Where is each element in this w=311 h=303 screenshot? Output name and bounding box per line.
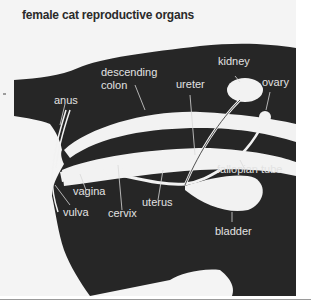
bottom-divider bbox=[0, 299, 311, 300]
label-descending: descending bbox=[101, 66, 157, 78]
label-fallopian-tube: fallopian tube bbox=[217, 163, 282, 175]
label-uterus: uterus bbox=[142, 196, 173, 208]
kidney-organ bbox=[227, 78, 263, 102]
label-kidney: kidney bbox=[218, 55, 250, 67]
label-colon: colon bbox=[101, 79, 127, 91]
label-anus: anus bbox=[54, 94, 78, 106]
label-cervix: cervix bbox=[108, 207, 137, 219]
label-bladder: bladder bbox=[215, 225, 252, 237]
label-ovary: ovary bbox=[262, 76, 289, 88]
label-vagina: vagina bbox=[73, 185, 106, 197]
label-vulva: vulva bbox=[63, 206, 90, 218]
ovary-organ bbox=[259, 111, 271, 123]
label-ureter: ureter bbox=[176, 78, 205, 90]
cat-anatomy-diagram: descending colon kidney ureter ovary anu… bbox=[0, 0, 311, 303]
